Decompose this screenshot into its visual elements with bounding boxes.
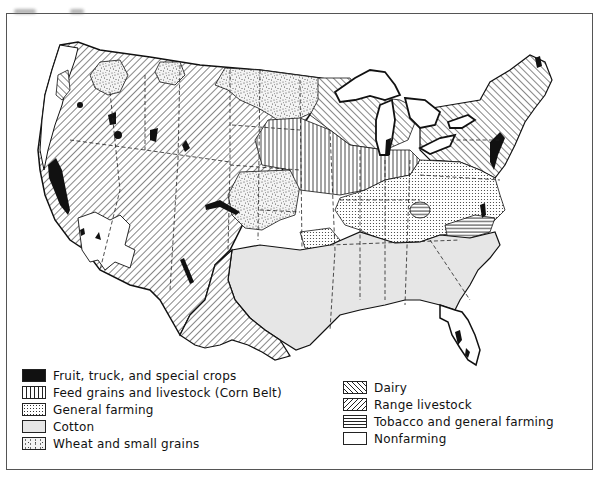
- legend-label: Wheat and small grains: [53, 437, 199, 451]
- legend-item-nonfarming: Nonfarming: [343, 430, 554, 447]
- region-fruit-idaho: [114, 131, 122, 139]
- legend-item-dairy: Dairy: [343, 379, 554, 396]
- swatch-tobacco: [343, 415, 367, 428]
- swatch-feed: [22, 386, 46, 399]
- region-tobacco-kentucky: [410, 202, 430, 218]
- region-wheat-south: [228, 170, 300, 230]
- swatch-cotton: [22, 420, 46, 433]
- legend-right-column: Dairy Range livestock Tobacco and genera…: [343, 379, 554, 447]
- swatch-fruit: [22, 369, 46, 382]
- legend-item-tobacco: Tobacco and general farming: [343, 413, 554, 430]
- legend-left-column: Fruit, truck, and special crops Feed gra…: [22, 367, 282, 452]
- legend-item-cotton: Cotton: [22, 418, 282, 435]
- legend-label: Range livestock: [374, 398, 472, 412]
- region-dairy-northeast: [420, 55, 552, 178]
- swatch-wheat: [22, 437, 46, 450]
- legend-label: Cotton: [53, 420, 94, 434]
- legend-item-general: General farming: [22, 401, 282, 418]
- legend-label: Nonfarming: [374, 432, 446, 446]
- swatch-general: [22, 403, 46, 416]
- legend-label: Tobacco and general farming: [374, 415, 554, 429]
- legend-label: Dairy: [374, 381, 407, 395]
- legend-item-feed: Feed grains and livestock (Corn Belt): [22, 384, 282, 401]
- legend-label: Fruit, truck, and special crops: [53, 369, 236, 383]
- swatch-range: [343, 398, 367, 411]
- swatch-dairy: [343, 381, 367, 394]
- legend-item-range: Range livestock: [343, 396, 554, 413]
- legend-label: General farming: [53, 403, 154, 417]
- legend-item-wheat: Wheat and small grains: [22, 435, 282, 452]
- legend-item-fruit: Fruit, truck, and special crops: [22, 367, 282, 384]
- legend-label: Feed grains and livestock (Corn Belt): [53, 386, 282, 400]
- lake-superior: [335, 70, 400, 102]
- swatch-nonfarming: [343, 432, 367, 445]
